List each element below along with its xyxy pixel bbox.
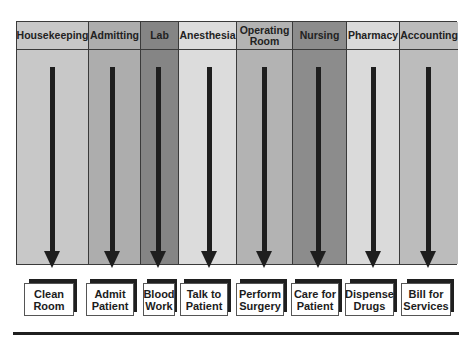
arrow-down-icon: [201, 251, 217, 268]
lane-header-anesthesia: Anesthesia: [179, 22, 236, 50]
arrow-down-icon: [44, 251, 60, 268]
arrow-shaft: [262, 67, 267, 253]
lane-header-pharmacy: Pharmacy: [347, 22, 399, 50]
arrow-down-icon: [310, 251, 326, 268]
task-admit-patient: Admit Patient: [86, 283, 134, 316]
lane-nursing: Nursing: [293, 22, 347, 264]
bottom-divider: [13, 332, 459, 335]
task-dispense-drugs: Dispense Drugs: [345, 283, 394, 316]
arrow-shaft: [110, 67, 115, 253]
arrow-down-icon: [150, 251, 166, 268]
arrow-shaft: [316, 67, 321, 253]
department-swimlanes: Housekeeping Admitting Lab Anesthesia Op…: [16, 21, 457, 265]
task-perform-surgery: Perform Surgery: [236, 283, 284, 316]
lane-pharmacy: Pharmacy: [347, 22, 400, 264]
lane-header-housekeeping: Housekeeping: [17, 22, 88, 50]
lane-header-operating-room: Operating Room: [237, 22, 292, 50]
lane-header-lab: Lab: [141, 22, 178, 50]
arrow-shaft: [156, 67, 161, 253]
arrow-down-icon: [104, 251, 120, 268]
arrow-shaft: [50, 67, 55, 253]
task-talk-to-patient: Talk to Patient: [180, 283, 228, 316]
lane-accounting: Accounting: [400, 22, 458, 264]
task-care-for-patient: Care for Patient: [291, 283, 339, 316]
lane-anesthesia: Anesthesia: [179, 22, 237, 264]
lane-header-accounting: Accounting: [400, 22, 458, 50]
lane-header-admitting: Admitting: [89, 22, 140, 50]
lane-lab: Lab: [141, 22, 179, 264]
arrow-down-icon: [420, 251, 436, 268]
arrow-down-icon: [365, 251, 381, 268]
task-bill-for-services: Bill for Services: [401, 283, 451, 316]
task-clean-room: Clean Room: [24, 283, 74, 316]
arrow-shaft: [207, 67, 212, 253]
arrow-down-icon: [256, 251, 272, 268]
lane-admitting: Admitting: [89, 22, 141, 264]
arrow-shaft: [426, 67, 431, 253]
arrow-shaft: [371, 67, 376, 253]
task-blood-work: Blood Work: [143, 283, 175, 316]
lane-housekeeping: Housekeeping: [17, 22, 89, 264]
lane-header-nursing: Nursing: [293, 22, 346, 50]
lane-operating-room: Operating Room: [237, 22, 293, 264]
